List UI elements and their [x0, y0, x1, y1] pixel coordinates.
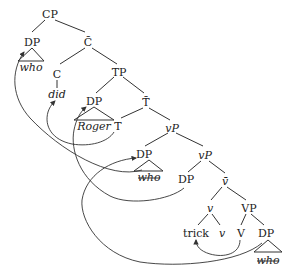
node-vp-mid: vP: [198, 149, 212, 162]
node-c-bar: C̄: [84, 36, 92, 49]
node-dp-inner-spec: DP: [178, 173, 195, 186]
node-dp-spec-cp: DP: [24, 36, 41, 49]
node-vp-top: vP: [165, 122, 179, 135]
node-vp-lower: VP: [240, 202, 257, 215]
node-t: T: [114, 120, 122, 133]
node-dp-obj: DP: [258, 227, 275, 240]
node-c: C: [53, 68, 61, 81]
tree-labels: CP DP who C̄ C did TP DP Roger T̄ T vP D…: [19, 8, 280, 267]
word-who-spec-cp: who: [19, 61, 43, 74]
word-roger: Roger: [76, 120, 111, 133]
node-v-head: v: [207, 202, 214, 215]
node-v-big: V: [236, 227, 246, 240]
node-dp-spec-tp: DP: [86, 95, 103, 108]
node-v-small: v: [219, 227, 226, 240]
arrow-obj-to-outer-spec: [82, 158, 262, 264]
node-v-bar: v̄: [222, 175, 229, 188]
word-trick: trick: [183, 227, 209, 240]
syntax-tree: CP DP who C̄ C did TP DP Roger T̄ T vP D…: [0, 0, 292, 273]
arrow-v-to-little-v: [196, 240, 240, 255]
node-tp: TP: [112, 66, 127, 79]
word-did: did: [48, 88, 66, 101]
node-dp-outer-spec: DP: [136, 148, 153, 161]
node-t-bar: T̄: [142, 96, 150, 109]
node-cp: CP: [42, 8, 58, 21]
tree-branches: [18, 20, 282, 252]
